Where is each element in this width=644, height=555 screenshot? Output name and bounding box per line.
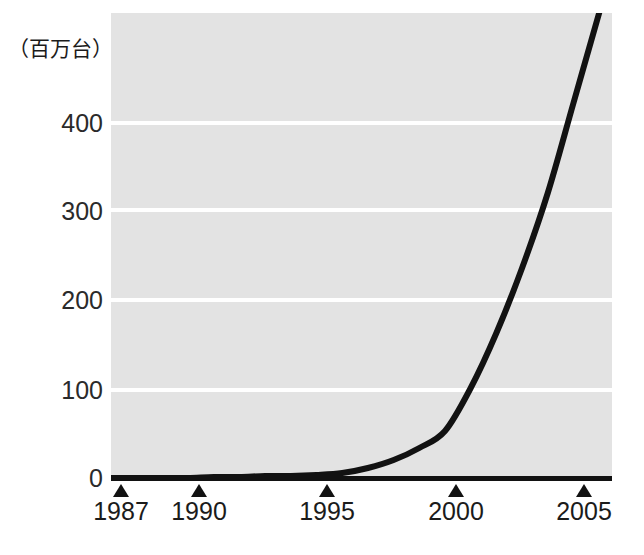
triangle-marker-icon: [191, 484, 207, 497]
x-tick-1987: 1987: [76, 484, 166, 525]
triangle-marker-icon: [113, 484, 129, 497]
x-tick-1995: 1995: [282, 484, 372, 525]
x-tick-1990: 1990: [154, 484, 244, 525]
x-tick-label-1990: 1990: [154, 498, 244, 525]
x-tick-label-1995: 1995: [282, 498, 372, 525]
x-tick-label-2000: 2000: [411, 498, 501, 525]
line-chart-figure: （百万台） 400 300 200 100 0 1987 1990: [0, 0, 644, 555]
x-tick-label-1987: 1987: [76, 498, 166, 525]
x-axis-ticks: 1987 1990 1995 2000 2005: [0, 0, 644, 555]
triangle-marker-icon: [576, 484, 592, 497]
x-tick-2000: 2000: [411, 484, 501, 525]
x-tick-2005: 2005: [539, 484, 629, 525]
triangle-marker-icon: [448, 484, 464, 497]
x-tick-label-2005: 2005: [539, 498, 629, 525]
triangle-marker-icon: [319, 484, 335, 497]
